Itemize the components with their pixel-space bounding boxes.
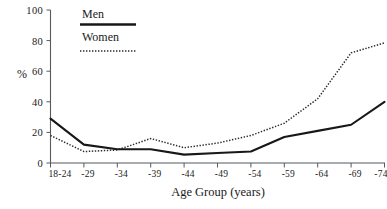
legend-label-women: Women [82, 30, 119, 44]
y-tick-label-80: 80 [32, 36, 43, 47]
x-axis-title: Age Group (years) [171, 185, 265, 199]
y-tick-label-40: 40 [32, 97, 43, 108]
y-tick-labels: 100 80 60 40 20 0 [26, 5, 43, 169]
chart-canvas: 100 80 60 40 20 0 % 18-24 -29 -34 [0, 0, 387, 209]
series-line-women [51, 43, 385, 152]
x-tick-label-6: -54 [248, 169, 261, 179]
x-tick-label-5: -49 [215, 169, 228, 179]
x-tick-label-1: -29 [81, 169, 94, 179]
x-tick-labels: 18-24 -29 -34 -39 -44 -49 -54 -59 -64 -6… [48, 169, 387, 179]
x-tick-label-3: -39 [148, 169, 161, 179]
y-tick-label-60: 60 [32, 66, 43, 77]
y-tick-label-0: 0 [37, 158, 43, 169]
y-tick-label-20: 20 [32, 127, 43, 138]
chart-legend: Men Women [80, 7, 136, 51]
legend-label-men: Men [82, 7, 104, 21]
line-chart: 100 80 60 40 20 0 % 18-24 -29 -34 [0, 0, 387, 209]
y-tick-marks [47, 10, 51, 163]
x-tick-label-8: -64 [315, 169, 328, 179]
x-tick-label-2: -34 [115, 169, 128, 179]
x-tick-marks [51, 163, 385, 168]
series-line-men [51, 102, 385, 155]
x-tick-label-0: 18-24 [48, 169, 71, 179]
x-tick-label-10: -74 [374, 169, 387, 179]
x-tick-label-4: -44 [181, 169, 194, 179]
y-tick-label-100: 100 [26, 5, 43, 16]
x-tick-label-7: -59 [282, 169, 295, 179]
x-tick-label-9: -69 [348, 169, 361, 179]
y-axis-title: % [17, 67, 27, 81]
